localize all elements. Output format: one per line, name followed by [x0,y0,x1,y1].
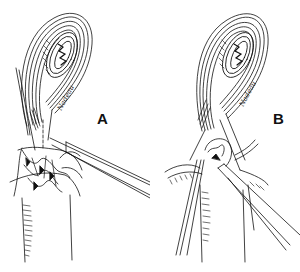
panel-label-a: A [97,111,108,126]
panel-label-b: B [273,111,284,126]
surgical-illustration: Nadeau A [0,0,300,272]
panel-b: Nadeau B [150,0,300,272]
panel-a-drawing [0,0,150,272]
panel-b-drawing [150,0,300,272]
panel-a: Nadeau A [0,0,150,272]
